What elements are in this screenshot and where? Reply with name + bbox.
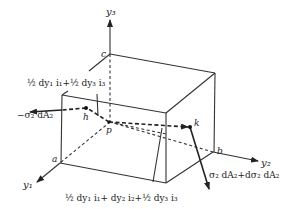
edge-c-back-top	[110, 54, 215, 73]
point-p-label: p	[106, 125, 112, 135]
vertex-c-label: c	[101, 49, 106, 59]
bottom-offset-label: ½ dy₁ i₁+ dy₂ i₂+½ dy₃ i₃	[65, 193, 178, 203]
edge-front-bottom	[60, 163, 166, 183]
vertex-b-label: b	[217, 146, 223, 156]
stress-element-diagram: y₃ y₂ y₁ c b a p h k ½ dy₁ i₁+½ dy₃ i₃ ½…	[0, 0, 304, 209]
edge-back-right-vertical	[214, 73, 215, 152]
y1-axis	[37, 163, 60, 182]
top-offset-label: ½ dy₁ i₁+½ dy₃ i₃	[27, 78, 106, 88]
point-h	[84, 106, 88, 110]
edge-front-top-left	[62, 91, 68, 95]
leader-top-offset	[97, 94, 98, 116]
y3-axis-label: y₃	[105, 6, 116, 17]
point-k	[188, 125, 192, 129]
edge-c-front-top	[89, 54, 110, 71]
point-k-label: k	[194, 118, 199, 128]
edge-front-top	[62, 95, 166, 113]
y2-axis-label: y₂	[260, 157, 271, 168]
hidden-edge-to-a	[60, 122, 110, 163]
point-p	[107, 120, 110, 123]
y1-axis-label: y₁	[22, 179, 33, 190]
force-left-dashed	[62, 108, 86, 110]
point-h-label: h	[83, 112, 89, 122]
right-force-label: σ₂ dA₂+dσ₂ dA₂	[209, 170, 280, 180]
left-force-label: −σ₂ dA₂	[17, 110, 53, 120]
edge-front-left-vertical	[61, 95, 62, 163]
edge-top-diagonal	[166, 73, 215, 113]
force-right-arrow	[190, 127, 209, 189]
vertex-a-label: a	[52, 154, 57, 164]
